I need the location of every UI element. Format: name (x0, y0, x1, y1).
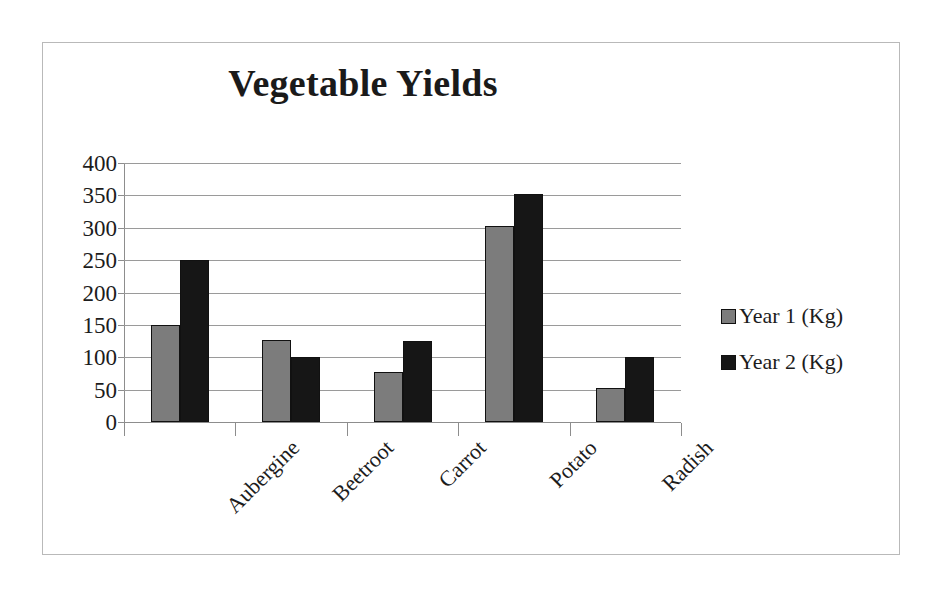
bar[interactable] (262, 340, 291, 422)
x-axis-label-radish: Radish (657, 435, 719, 497)
chart-frame: Vegetable Yields 05010015020025030035040… (42, 42, 900, 555)
gridline (124, 228, 681, 229)
bar[interactable] (291, 357, 320, 422)
plot-area (124, 163, 681, 422)
x-axis-label-potato: Potato (544, 435, 602, 493)
x-axis-tick (681, 423, 682, 436)
y-axis-tick-label: 0 (61, 411, 117, 434)
y-axis-tick-label: 250 (61, 249, 117, 272)
y-axis-tick-label: 100 (61, 346, 117, 369)
legend-item[interactable]: Year 2 (Kg) (721, 339, 896, 385)
legend-swatch-icon (721, 355, 736, 370)
gridline (124, 195, 681, 196)
bar[interactable] (625, 357, 654, 422)
x-axis-category-labels: AubergineBeetrootCarrotPotatoRadish (124, 435, 681, 545)
bar[interactable] (403, 341, 432, 422)
x-axis-label-beetroot: Beetroot (327, 435, 399, 507)
bar[interactable] (180, 260, 209, 422)
y-axis-tick-label: 150 (61, 314, 117, 337)
y-axis-tick-label: 200 (61, 282, 117, 305)
legend-label: Year 2 (Kg) (739, 349, 843, 375)
bar[interactable] (514, 194, 543, 422)
bar[interactable] (374, 372, 403, 422)
gridline (124, 163, 681, 164)
x-axis-label-carrot: Carrot (433, 435, 491, 493)
legend-label: Year 1 (Kg) (739, 303, 843, 329)
y-axis-tick-label: 400 (61, 152, 117, 175)
bar[interactable] (151, 325, 180, 422)
legend-swatch-icon (721, 309, 736, 324)
chart-legend: Year 1 (Kg)Year 2 (Kg) (721, 293, 896, 385)
y-axis-tick-label: 300 (61, 217, 117, 240)
y-axis-tick-label: 50 (61, 379, 117, 402)
chart-title: Vegetable Yields (43, 61, 683, 105)
bar[interactable] (596, 388, 625, 422)
bar[interactable] (485, 226, 514, 422)
legend-item[interactable]: Year 1 (Kg) (721, 293, 896, 339)
y-axis-tick-labels: 050100150200250300350400 (57, 163, 117, 422)
y-axis-tick-label: 350 (61, 184, 117, 207)
x-axis-label-aubergine: Aubergine (221, 435, 305, 519)
